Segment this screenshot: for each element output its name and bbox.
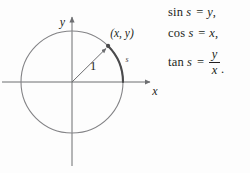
- tangent-function-name: tan: [168, 56, 184, 69]
- cosine-equals-sign: =: [198, 27, 205, 40]
- tangent-denominator: x: [210, 63, 220, 77]
- x-axis-label: x: [151, 84, 158, 98]
- sine-equals-sign: =: [196, 6, 203, 19]
- tangent-argument: s: [187, 56, 192, 69]
- tangent-numerator: y: [210, 48, 220, 62]
- tangent-equals-sign: =: [197, 56, 204, 69]
- equation-cosine: cos s = x ,: [168, 27, 250, 40]
- unit-circle-figure: y x 1 s (x, y) sin s = y , cos s = x , t…: [0, 0, 250, 173]
- cosine-trailing-punctuation: ,: [215, 27, 218, 40]
- cosine-function-name: cos: [168, 27, 185, 40]
- sine-function-name: sin: [168, 6, 183, 19]
- y-axis-label: y: [59, 15, 66, 29]
- equation-tangent: tan s = y x .: [168, 48, 250, 76]
- arc-length-label: s: [125, 55, 128, 64]
- tangent-fraction: y x: [209, 48, 220, 76]
- tangent-trailing-punctuation: .: [221, 63, 224, 77]
- radius-length-label: 1: [90, 59, 96, 73]
- sine-trailing-punctuation: ,: [213, 6, 216, 19]
- arc-s-highlight: [108, 46, 123, 82]
- sine-argument: s: [186, 6, 191, 19]
- point-marker: [106, 44, 110, 48]
- cosine-argument: s: [188, 27, 193, 40]
- point-coordinates-label: (x, y): [110, 27, 134, 40]
- equation-sine: sin s = y ,: [168, 6, 250, 19]
- trig-identities-block: sin s = y , cos s = x , tan s = y x .: [168, 6, 250, 76]
